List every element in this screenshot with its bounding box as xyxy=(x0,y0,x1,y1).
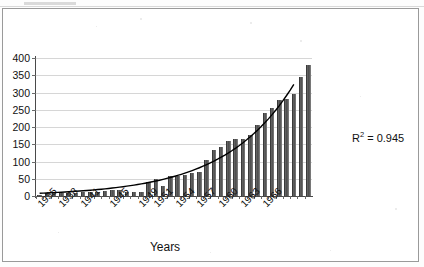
r-squared-exponent: 2 xyxy=(360,130,364,139)
y-tick-label: 300 xyxy=(0,88,30,98)
speckle xyxy=(330,250,331,251)
scan-edge-line xyxy=(0,6,424,7)
y-tick-label: 100 xyxy=(0,157,30,167)
y-tick-label: 400 xyxy=(0,53,30,63)
speckle xyxy=(58,232,59,233)
y-tick-label: 150 xyxy=(0,139,30,149)
speckle xyxy=(250,22,252,24)
speckle xyxy=(96,26,97,27)
y-tick-label: 250 xyxy=(0,105,30,115)
r-squared-symbol: R xyxy=(352,132,360,144)
y-tick-label: 0 xyxy=(0,191,30,201)
plot-area: 050100150200250300350400 xyxy=(36,58,312,196)
speckle xyxy=(300,40,302,42)
y-tick-label: 50 xyxy=(0,174,30,184)
speckle xyxy=(18,140,20,142)
x-axis-title: Years xyxy=(0,240,330,254)
scan-artifact xyxy=(24,2,76,5)
r-squared-annotation: R2 = 0.945 xyxy=(352,130,404,144)
speckle xyxy=(395,208,397,210)
x-axis-labels: 1935193819411945194919511954195719601963… xyxy=(36,198,316,244)
y-tick-label: 350 xyxy=(0,70,30,80)
trendline-path xyxy=(40,84,294,193)
chart-figure: 050100150200250300350400 193519381941194… xyxy=(0,0,424,267)
y-tick-label: 200 xyxy=(0,122,30,132)
trendline-curve xyxy=(34,56,324,202)
r-squared-value: = 0.945 xyxy=(367,132,404,144)
speckle xyxy=(210,252,211,253)
speckle xyxy=(360,96,361,97)
speckle xyxy=(140,18,142,20)
